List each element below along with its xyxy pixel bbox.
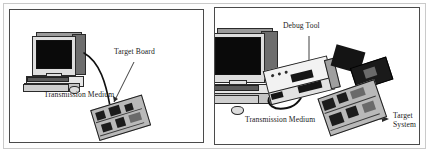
panel-right-content: Debug Tool Transmission Medium Target Sy… — [215, 8, 419, 144]
label-target-system-line2: System — [393, 121, 416, 129]
panel-direct-connection: Target Board Transmission Medium — [9, 9, 204, 143]
panel-debug-tool: Debug Tool Transmission Medium Target Sy… — [214, 7, 420, 145]
label-transmission-medium-right: Transmission Medium — [245, 116, 315, 124]
figure-root: Target Board Transmission Medium — [0, 0, 429, 152]
label-target-board: Target Board — [114, 48, 155, 56]
label-target-system-line1: Target — [393, 112, 413, 120]
panel-left-content: Target Board Transmission Medium — [10, 10, 203, 142]
target-board-leader-line — [114, 62, 134, 102]
label-transmission-medium-left: Transmission Medium — [44, 91, 114, 99]
label-debug-tool: Debug Tool — [283, 22, 320, 30]
